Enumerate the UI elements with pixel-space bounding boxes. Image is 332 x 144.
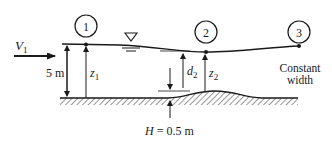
velocity-label: V1: [15, 38, 27, 55]
constant-width-note: Constant: [280, 62, 322, 74]
z1-label: z1: [89, 66, 99, 82]
upstream-depth-label: 5 m: [46, 66, 65, 80]
z2-label: z2: [208, 66, 218, 82]
channel-bed: [60, 91, 298, 105]
channel-flow-diagram: V1 1 2 3 5 m z1 d2 z2: [0, 0, 332, 144]
d2-dimension: [158, 51, 190, 91]
free-surface-symbol-icon: [122, 33, 140, 51]
svg-text:3: 3: [296, 26, 302, 40]
station-3-marker: 3: [288, 21, 310, 48]
svg-text:1: 1: [83, 20, 89, 34]
d2-label: d2: [187, 64, 198, 80]
svg-text:2: 2: [203, 26, 209, 40]
constant-width-note-line2: width: [287, 74, 313, 86]
station-2-marker: 2: [195, 21, 217, 54]
bump-height-label: H = 0.5 m: [144, 124, 194, 138]
station-1-marker: 1: [75, 15, 97, 47]
